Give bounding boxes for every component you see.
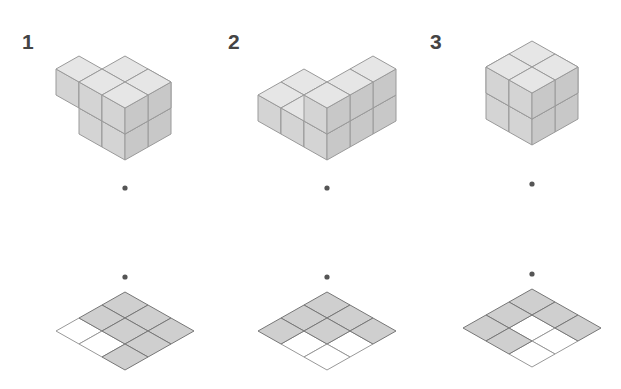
cube-figure-2 [258,56,396,160]
marker-dot-bottom [122,274,127,279]
marker-dot-top [529,181,534,186]
floor-grid-3 [463,289,601,367]
floor-grid-1 [56,292,194,370]
marker-dot-bottom [324,274,329,279]
cube-figure-3 [486,41,578,145]
cube-figure-1 [56,56,171,160]
marker-dot-bottom [529,271,534,276]
marker-dot-top [122,185,127,190]
floor-grid-2 [258,292,396,370]
marker-dot-top [324,185,329,190]
cube-figures-canvas [0,0,621,389]
